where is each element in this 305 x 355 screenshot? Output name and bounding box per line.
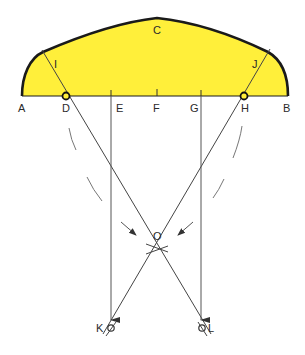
label-d: D [62,102,70,114]
dashed-arc-right-2 [213,179,224,198]
label-b: B [283,102,290,114]
dashed-arc-left-1 [69,128,76,150]
label-a: A [18,102,26,114]
label-h: H [241,102,249,114]
label-f: F [153,102,160,114]
arrow-right-to-o [178,222,193,235]
label-g: G [190,102,199,114]
arrow-left-to-o [121,222,136,235]
label-k: K [96,322,104,334]
geometry-diagram: A B C D E F G H I J O K L [0,0,305,355]
o-hatch-2 [146,246,168,254]
label-i: I [54,58,57,70]
point-h [241,93,248,100]
o-hatch-1 [146,244,168,252]
label-l: L [208,322,214,334]
label-o: O [153,230,162,242]
label-c: C [153,24,161,36]
point-d [63,93,70,100]
dashed-arc-right-1 [233,126,242,158]
label-j: J [252,58,258,70]
dashed-arc-left-2 [87,177,102,201]
label-e: E [116,102,123,114]
